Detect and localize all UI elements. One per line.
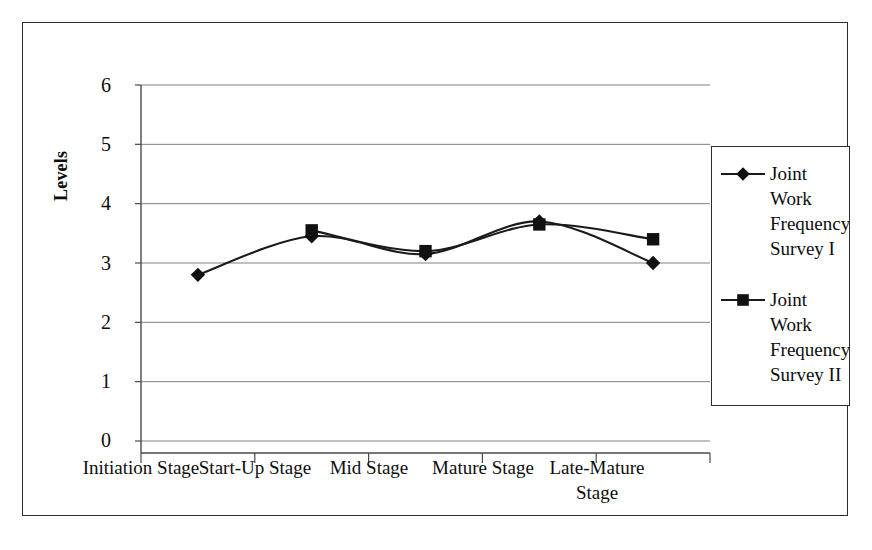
data-point-marker [306,224,318,236]
y-tick-label-0: 0 [85,430,111,450]
series-layer [191,214,661,282]
x-tick-label-initiation-stage: Initiation Stage [81,455,201,480]
data-point-marker [419,245,431,257]
data-point-marker [646,256,660,270]
x-tick-label-start-up-stage: Start-Up Stage [195,455,315,480]
y-tick-label-2: 2 [85,312,111,332]
series-survey-ii [306,218,660,257]
x-tick-label-mid-stage: Mid Stage [309,455,429,480]
y-tick-label-4: 4 [85,193,111,213]
legend-box: Joint Work Frequency Survey I Joint Work… [711,146,850,406]
data-point-marker [191,268,205,282]
chart-frame: Levels 6 5 4 3 2 1 0 Initiation Stage St… [22,22,848,516]
plot-area [141,85,710,441]
y-tick-label-6: 6 [85,75,111,95]
legend-label-survey-ii: Joint Work Frequency Survey II [770,287,856,387]
square-marker-icon [720,291,766,309]
y-tick-label-1: 1 [85,371,111,391]
diamond-marker-icon [720,165,766,183]
axis-lines [135,85,710,463]
x-tick-label-late-mature-stage: Late-Mature Stage [537,455,657,505]
y-tick-label-3: 3 [85,253,111,273]
legend-label-survey-i: Joint Work Frequency Survey I [770,161,856,261]
x-tick-label-mature-stage: Mature Stage [423,455,543,480]
data-point-marker [533,218,545,230]
y-axis-title: Levels [51,151,72,201]
data-point-marker [647,233,659,245]
y-tick-label-5: 5 [85,134,111,154]
plot-svg [141,85,710,441]
figure-container: Levels 6 5 4 3 2 1 0 Initiation Stage St… [0,0,872,550]
series-line [312,224,653,251]
